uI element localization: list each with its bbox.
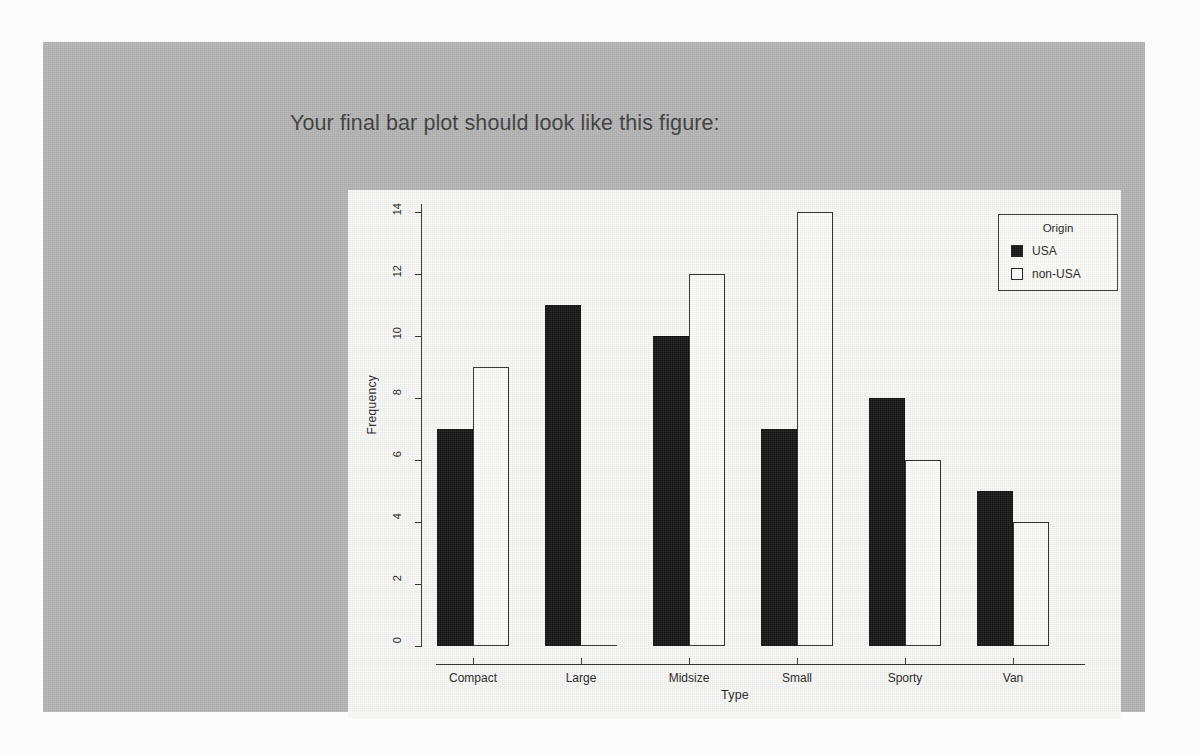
y-tick [415,398,422,399]
y-tick [415,212,422,213]
bar-van-usa [977,491,1013,646]
x-axis-line [436,664,1085,665]
x-tick-label-large: Large [566,671,597,685]
bar-small-non-usa [797,212,833,646]
legend-title: Origin [999,222,1117,234]
legend: Origin USAnon-USA [998,214,1118,291]
y-tick [415,646,422,647]
x-tick [689,658,690,665]
bar-compact-usa [437,429,473,646]
x-tick-label-sporty: Sporty [888,671,923,685]
y-tick [415,336,422,337]
y-tick [415,460,422,461]
legend-entry-non-usa: non-USA [1011,267,1081,281]
bar-midsize-non-usa [689,274,725,646]
y-axis-title: Frequency [365,375,379,434]
x-tick-label-compact: Compact [449,671,497,685]
bar-midsize-usa [653,336,689,646]
page-heading: Your final bar plot should look like thi… [290,111,720,136]
bar-large-non-usa [581,645,617,646]
bar-sporty-usa [869,398,905,646]
x-tick [581,658,582,665]
bar-small-usa [761,429,797,646]
bar-compact-non-usa [473,367,509,646]
y-tick [415,522,422,523]
content-panel: Your final bar plot should look like thi… [43,42,1145,712]
x-tick [1013,658,1014,665]
bar-sporty-non-usa [905,460,941,646]
bar-large-usa [545,305,581,646]
x-tick-label-midsize: Midsize [669,671,710,685]
legend-swatch-non-usa [1011,268,1023,280]
y-tick [415,274,422,275]
figure-card: 02468101214 CompactLargeMidsizeSmallSpor… [348,190,1121,718]
y-tick [415,584,422,585]
y-axis-line [421,204,422,646]
x-tick [797,658,798,665]
x-axis-title: Type [721,688,749,702]
x-tick-label-small: Small [782,671,812,685]
legend-label: USA [1032,244,1057,258]
legend-entry-usa: USA [1011,244,1057,258]
legend-label: non-USA [1032,267,1081,281]
x-tick [905,658,906,665]
bar-van-non-usa [1013,522,1049,646]
x-tick-label-van: Van [1003,671,1023,685]
legend-swatch-usa [1011,245,1023,257]
x-tick [473,658,474,665]
